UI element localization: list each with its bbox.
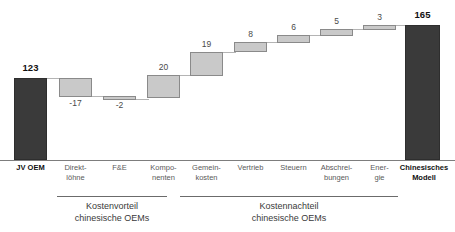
value-label-jv-oem: 123: [14, 63, 47, 73]
value-label-fue: -2: [103, 100, 136, 110]
bar-abschreibungen[interactable]: [320, 29, 353, 36]
value-label-chinesisches-modell: 165: [405, 10, 440, 20]
cat-label-jv-oem: JV OEM: [6, 163, 55, 173]
cat-label-steuern: Steuern: [270, 163, 317, 173]
value-label-komponenten: 20: [147, 62, 180, 72]
cat-label-vertrieb: Vertrieb: [227, 163, 274, 173]
group-label-kostenvorteil: Kostenvorteil chinesische OEMs: [42, 201, 182, 224]
value-label-gemeinkosten: 19: [190, 39, 223, 49]
bar-steuern[interactable]: [277, 35, 310, 43]
value-label-vertrieb: 8: [234, 29, 267, 39]
category-labels: JV OEM Direkt- löhne F&E Kompo- nenten G…: [0, 163, 455, 193]
bar-energie[interactable]: [363, 25, 396, 30]
connector-3: [134, 99, 149, 100]
bracket-kostenvorteil: [57, 196, 167, 197]
group-label-kostennachteil: Kostennachteil chinesische OEMs: [219, 201, 359, 224]
bar-jv-oem[interactable]: [14, 78, 47, 160]
bar-vertrieb[interactable]: [234, 42, 267, 52]
cat-label-chinesisches-modell: Chinesisches Modell: [396, 163, 452, 182]
value-label-energie: 3: [363, 12, 396, 22]
value-label-direktloehne: -17: [59, 98, 92, 108]
value-label-abschreibungen: 5: [320, 16, 353, 26]
plot-area: 123 -17 -2 20 19 8 6 5 3 165: [0, 0, 455, 160]
bracket-kostennachteil: [180, 196, 398, 197]
bar-komponenten[interactable]: [147, 75, 180, 98]
cat-label-fue: F&E: [96, 163, 143, 173]
x-axis-line: [0, 160, 455, 161]
bar-direktloehne[interactable]: [59, 78, 92, 97]
cat-label-komponenten: Kompo- nenten: [140, 163, 187, 182]
cat-label-abschreibungen: Abschrei- bungen: [313, 163, 360, 182]
cat-label-gemeinkosten: Gemein- kosten: [183, 163, 230, 182]
bar-gemeinkosten[interactable]: [190, 52, 223, 76]
connector-5: [221, 52, 236, 53]
cat-label-energie: Ener- gie: [358, 163, 401, 182]
value-label-steuern: 6: [277, 22, 310, 32]
bar-chinesisches-modell[interactable]: [405, 25, 440, 160]
waterfall-chart: 123 -17 -2 20 19 8 6 5 3 165 JV OEM Dire…: [0, 0, 455, 232]
cat-label-direktloehne: Direkt- löhne: [52, 163, 99, 182]
